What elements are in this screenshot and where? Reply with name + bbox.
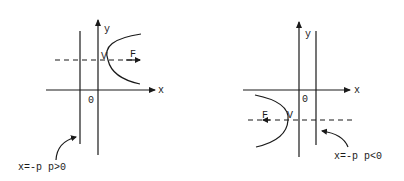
parabola-curve: [255, 95, 288, 147]
pointer-arrow: [56, 137, 76, 160]
origin-label: 0: [88, 95, 94, 106]
diagram-left: x y 0 V F x=-pp>0: [18, 20, 164, 173]
vertex-label: V: [101, 51, 107, 62]
directrix-label: x=-pp<0: [334, 151, 382, 162]
x-axis-label: x: [158, 85, 164, 96]
y-axis-label: y: [305, 29, 311, 40]
y-axis-label: y: [104, 24, 110, 35]
x-axis-label: x: [354, 85, 360, 96]
focus-label: F: [262, 110, 268, 121]
directrix-label: x=-pp>0: [18, 162, 66, 173]
pointer-arrow: [322, 131, 348, 147]
vertex-label: V: [287, 110, 293, 121]
parabola-diagrams: x y 0 V F x=-pp>0 x y 0 V F x=-pp<0: [0, 0, 404, 181]
origin-label: 0: [302, 94, 308, 105]
focus-label: F: [130, 49, 136, 60]
diagram-right: x y 0 V F x=-pp<0: [243, 22, 382, 162]
